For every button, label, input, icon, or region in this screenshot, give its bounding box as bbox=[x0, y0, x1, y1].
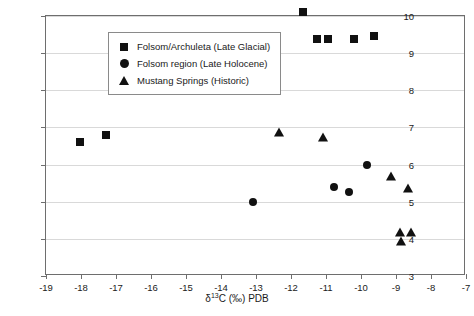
x-tick bbox=[151, 274, 152, 279]
triangle-marker-icon bbox=[116, 76, 132, 85]
x-tick-label: -13 bbox=[249, 282, 263, 293]
data-point-square bbox=[76, 138, 84, 146]
x-tick-label: -9 bbox=[392, 282, 400, 293]
gridline bbox=[46, 16, 464, 17]
x-tick bbox=[326, 274, 327, 279]
legend-label-0: Folsom/Archuleta (Late Glacial) bbox=[137, 41, 270, 52]
legend-item-0: Folsom/Archuleta (Late Glacial) bbox=[116, 38, 270, 55]
data-point-square bbox=[324, 35, 332, 43]
data-point-triangle bbox=[403, 183, 413, 192]
y-tick bbox=[41, 53, 46, 54]
x-tick bbox=[291, 274, 292, 279]
x-axis-title-mass: 13 bbox=[211, 292, 219, 299]
x-tick-label: -14 bbox=[214, 282, 228, 293]
y-tick-label: 8 bbox=[409, 85, 414, 96]
y-tick-label: 3 bbox=[409, 271, 414, 282]
x-tick bbox=[361, 274, 362, 279]
legend: Folsom/Archuleta (Late Glacial) Folsom r… bbox=[108, 32, 281, 95]
x-tick bbox=[256, 274, 257, 279]
data-point-circle bbox=[363, 161, 371, 169]
data-point-circle bbox=[330, 183, 338, 191]
x-tick-label: -10 bbox=[354, 282, 368, 293]
x-tick-label: -11 bbox=[319, 282, 332, 293]
legend-item-1: Folsom region (Late Holocene) bbox=[116, 55, 270, 72]
x-axis-title: δ13C (‰) PDB bbox=[0, 292, 474, 304]
data-point-triangle bbox=[406, 228, 416, 237]
data-point-square bbox=[102, 131, 110, 139]
x-tick bbox=[81, 274, 82, 279]
x-tick-label: -18 bbox=[74, 282, 88, 293]
x-tick-label: -15 bbox=[179, 282, 193, 293]
data-point-triangle bbox=[396, 236, 406, 245]
plot-area: 345678910 -19-18-17-16-15-14-13-12-11-10… bbox=[45, 15, 465, 275]
data-point-square bbox=[313, 35, 321, 43]
x-tick bbox=[186, 274, 187, 279]
data-point-square bbox=[299, 8, 307, 16]
data-point-triangle bbox=[318, 132, 328, 141]
x-tick-label: -7 bbox=[462, 282, 470, 293]
x-tick-label: -16 bbox=[144, 282, 158, 293]
y-tick-label: 5 bbox=[409, 196, 414, 207]
y-tick bbox=[41, 239, 46, 240]
data-point-triangle bbox=[386, 171, 396, 180]
legend-label-1: Folsom region (Late Holocene) bbox=[137, 58, 267, 69]
y-tick-label: 9 bbox=[409, 48, 414, 59]
y-tick-label: 6 bbox=[409, 159, 414, 170]
x-tick bbox=[466, 274, 467, 279]
y-tick bbox=[41, 202, 46, 203]
x-axis-title-rest: C (‰) PDB bbox=[219, 293, 269, 304]
y-tick bbox=[41, 16, 46, 17]
x-tick-label: -19 bbox=[39, 282, 53, 293]
y-tick-label: 7 bbox=[409, 122, 414, 133]
x-tick-label: -12 bbox=[284, 282, 298, 293]
data-point-circle bbox=[345, 188, 353, 196]
circle-marker-icon bbox=[116, 59, 132, 68]
gridline bbox=[46, 127, 464, 128]
y-tick-label: 10 bbox=[403, 11, 414, 22]
x-tick bbox=[46, 274, 47, 279]
data-point-square bbox=[370, 32, 378, 40]
y-tick bbox=[41, 127, 46, 128]
legend-label-2: Mustang Springs (Historic) bbox=[137, 75, 249, 86]
x-tick bbox=[396, 274, 397, 279]
square-marker-icon bbox=[116, 43, 132, 51]
x-tick-label: -17 bbox=[109, 282, 123, 293]
scatter-plot-figure: δ15N (‰) PDB δ13C (‰) PDB 345678910 -19-… bbox=[0, 0, 474, 316]
y-tick bbox=[41, 165, 46, 166]
data-point-triangle bbox=[274, 128, 284, 137]
x-tick bbox=[431, 274, 432, 279]
legend-item-2: Mustang Springs (Historic) bbox=[116, 72, 270, 89]
data-point-circle bbox=[249, 198, 257, 206]
gridline bbox=[46, 165, 464, 166]
data-point-square bbox=[350, 35, 358, 43]
x-tick bbox=[221, 274, 222, 279]
x-tick-label: -8 bbox=[427, 282, 435, 293]
x-tick bbox=[116, 274, 117, 279]
y-tick bbox=[41, 90, 46, 91]
